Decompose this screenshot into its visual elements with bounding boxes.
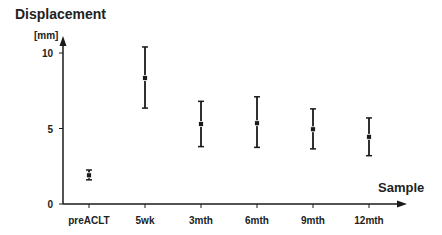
x-tick-label: 3mth: [189, 215, 213, 226]
mean-marker: [143, 75, 148, 80]
mean-marker: [311, 127, 316, 132]
y-tick-label: 5: [47, 124, 53, 135]
y-tick-label: 10: [42, 48, 54, 59]
chart-container: Displacement [mm] Sample 0510preACLT5wk3…: [0, 0, 442, 235]
x-axis-arrow-icon: [397, 201, 407, 208]
y-tick-label: 0: [47, 199, 53, 210]
plot-area: 0510preACLT5wk3mth6mth9mth12mth: [0, 0, 442, 235]
mean-marker: [87, 173, 92, 178]
mean-marker: [199, 121, 204, 126]
x-tick-label: preACLT: [68, 215, 109, 226]
x-tick-label: 12mth: [354, 215, 383, 226]
y-axis-arrow-icon: [60, 36, 67, 46]
mean-marker: [367, 134, 372, 139]
x-tick-label: 5wk: [136, 215, 155, 226]
x-tick-label: 6mth: [245, 215, 269, 226]
mean-marker: [255, 121, 260, 126]
x-tick-label: 9mth: [301, 215, 325, 226]
